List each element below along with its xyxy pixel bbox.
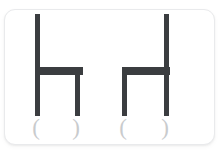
screenshot-canvas: ( ) ( ) — [0, 0, 222, 155]
figure-card — [4, 9, 215, 145]
